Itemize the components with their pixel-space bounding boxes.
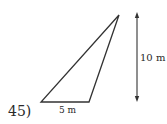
triangle — [41, 15, 119, 102]
base-label: 5 m — [59, 105, 77, 115]
height-arrow — [135, 12, 139, 102]
height-label: 10 m — [140, 52, 166, 63]
triangle-diagram: 10 m 5 m 45) — [0, 0, 167, 124]
problem-number: 45) — [8, 103, 31, 119]
